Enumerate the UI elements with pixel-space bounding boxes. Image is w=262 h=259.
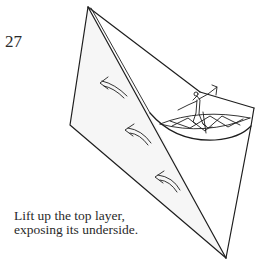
caption-line-1: Lift up the top layer, (14, 209, 138, 223)
step-number: 27 (5, 33, 22, 50)
step-caption: Lift up the top layer, exposing its unde… (14, 209, 138, 237)
origami-step-diagram: 27 Lift up the top layer, exposing its u… (0, 0, 262, 259)
caption-line-2: exposing its underside. (14, 223, 138, 237)
